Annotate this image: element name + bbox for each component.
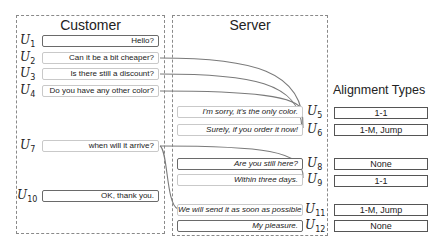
alignment-type-u11: 1-M, Jump (334, 204, 428, 216)
alignment-type-u6: 1-M, Jump (334, 124, 428, 136)
server-utterance-u11: We will send it as soon as possible (177, 204, 303, 216)
customer-utterance-u10: OK, thank you. (42, 190, 159, 202)
label-u1: U1 (20, 33, 35, 49)
label-u7: U7 (20, 138, 35, 154)
label-u8: U8 (307, 156, 322, 172)
customer-utterance-u7: when will it arrive? (42, 140, 159, 152)
label-u5: U5 (307, 104, 322, 120)
link-u3-u6 (160, 74, 302, 128)
customer-utterance-u4: Do you have any other color? (42, 85, 159, 97)
label-u2: U2 (20, 50, 35, 66)
label-u4: U4 (20, 83, 35, 99)
label-u12: U12 (305, 218, 325, 234)
server-utterance-u12: My pleasure. (177, 220, 303, 232)
server-utterance-u8: Are you still here? (177, 158, 303, 170)
customer-utterance-u3: Is there still a discount? (42, 68, 159, 80)
customer-utterance-u2: Can it be a bit cheaper? (42, 52, 159, 64)
server-utterance-u6: Surely, if you order it now! (177, 124, 303, 136)
server-utterance-u9: Within three days. (177, 174, 303, 186)
customer-utterance-u1: Hello? (42, 35, 159, 47)
alignment-type-u12: None (334, 220, 428, 232)
alignment-type-u8: None (334, 158, 428, 170)
label-u9: U9 (307, 172, 322, 188)
alignment-type-u9: 1-1 (334, 175, 428, 187)
label-u6: U6 (307, 122, 322, 138)
label-u10: U10 (17, 188, 37, 204)
alignment-type-u5: 1-1 (334, 107, 428, 119)
label-u3: U3 (20, 66, 35, 82)
link-u7-u11 (160, 146, 178, 209)
server-utterance-u5: I'm sorry, it's the only color. (177, 106, 303, 118)
alignment-types-title: Alignment Types (333, 83, 425, 97)
label-u11: U11 (305, 202, 325, 218)
